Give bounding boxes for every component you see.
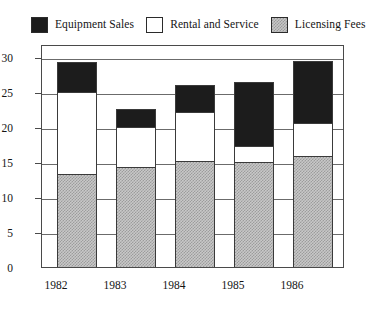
x-tick-label-1985: 1985 (203, 280, 263, 292)
bar-segment-licensing-fees-1982 (57, 174, 97, 267)
x-tick-label-1984: 1984 (144, 280, 204, 292)
y-tick-label-30: 30 (0, 53, 13, 65)
legend-swatch-white-icon (146, 17, 163, 33)
bar-1982 (57, 62, 97, 267)
y-tick-label-0: 0 (0, 263, 13, 275)
bar-1985 (234, 82, 274, 267)
x-tick-label-1986: 1986 (262, 280, 322, 292)
y-tick-label-5: 5 (0, 228, 13, 240)
bar-segment-licensing-fees-1984 (175, 161, 215, 267)
bar-segment-licensing-fees-1986 (293, 156, 333, 267)
bar-segment-equipment-sales-1986 (293, 61, 333, 123)
bar-segment-equipment-sales-1982 (57, 62, 97, 92)
bar-segment-licensing-fees-1983 (116, 167, 156, 267)
bar-segment-equipment-sales-1984 (175, 85, 215, 112)
y-tick-label-20: 20 (0, 123, 13, 135)
chart-legend: Equipment Sales Rental and Service Licen… (0, 12, 359, 38)
y-tick-label-10: 10 (0, 193, 13, 205)
legend-swatch-black-icon (31, 17, 48, 33)
plot-area (41, 45, 344, 268)
y-tick-label-25: 25 (0, 88, 13, 100)
bar-segment-rental-and-service-1984 (175, 112, 215, 161)
bar-1983 (116, 109, 156, 267)
y-tick-label-15: 15 (0, 158, 13, 170)
plot-inner (42, 46, 343, 267)
legend-label-equipment-sales: Equipment Sales (55, 19, 134, 31)
bar-segment-licensing-fees-1985 (234, 162, 274, 267)
bar-segment-rental-and-service-1983 (116, 127, 156, 167)
x-tick-label-1982: 1982 (26, 280, 86, 292)
bar-segment-rental-and-service-1982 (57, 92, 97, 174)
bar-segment-rental-and-service-1985 (234, 146, 274, 162)
x-tick-label-1983: 1983 (85, 280, 145, 292)
legend-item-licensing-fees: Licensing Fees (271, 17, 366, 33)
legend-swatch-hatch-icon (271, 17, 288, 33)
legend-item-rental-and-service: Rental and Service (146, 17, 259, 33)
bar-segment-rental-and-service-1986 (293, 123, 333, 156)
bar-segment-equipment-sales-1985 (234, 82, 274, 146)
legend-label-licensing-fees: Licensing Fees (295, 19, 366, 31)
bar-segment-equipment-sales-1983 (116, 109, 156, 127)
legend-item-equipment-sales: Equipment Sales (31, 17, 134, 33)
bar-1984 (175, 85, 215, 267)
legend-label-rental-and-service: Rental and Service (170, 19, 259, 31)
gridline-30 (42, 59, 343, 60)
bar-1986 (293, 61, 333, 267)
